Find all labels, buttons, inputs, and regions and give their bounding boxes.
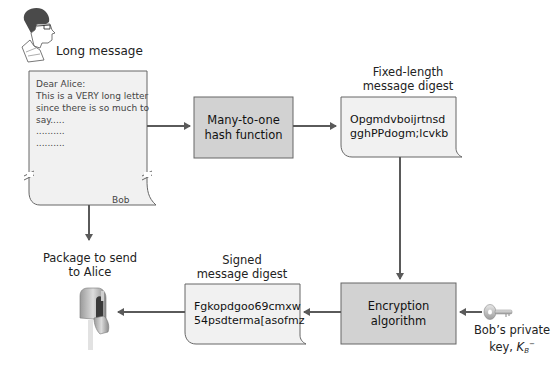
private-key-line: key, KB− — [468, 337, 556, 358]
mailbox-icon — [80, 288, 109, 350]
person-head-icon — [22, 8, 55, 62]
signed-digest-value-line: 54psdterma[asofmz — [194, 314, 304, 328]
package-label: Package to send — [40, 251, 140, 265]
signed-digest-title: message digest — [190, 267, 294, 281]
hash-box-line: hash function — [194, 128, 293, 143]
encryption-box-line: Encryption — [341, 299, 456, 314]
package-label: to Alice — [40, 265, 140, 279]
encryption-box-line: algorithm — [341, 314, 456, 329]
signed-digest-title: Signed — [190, 253, 294, 267]
digest-value-line: Opgmdvboijrtnsd — [350, 113, 445, 127]
key-subscript: B — [524, 347, 529, 355]
letter-line: .......... — [36, 137, 65, 149]
letter-line: Dear Alice: — [36, 78, 85, 90]
digest-title: message digest — [356, 79, 460, 93]
key-icon — [484, 305, 512, 320]
private-key-line: Bob’s private — [468, 323, 556, 337]
key-superscript: − — [529, 340, 535, 348]
sender-label: Long message — [56, 44, 143, 58]
digest-value-line: gghPPdogm;lcvkb — [350, 127, 448, 141]
letter-line: .......... — [36, 125, 65, 137]
letter-signature: Bob — [112, 194, 129, 206]
letter-line: since there is so much to — [36, 102, 149, 114]
hash-box-line: Many-to-one — [194, 113, 293, 128]
key-prefix: key, — [489, 340, 516, 354]
letter-line: This is a VERY long letter — [36, 90, 148, 102]
signed-digest-value-line: Fgkopdgoo69cmxw — [194, 300, 301, 314]
digest-title: Fixed-length — [356, 65, 460, 79]
